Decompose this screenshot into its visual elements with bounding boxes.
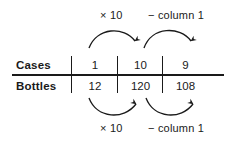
top-multiply-label: × 10: [100, 9, 123, 21]
row-label-cases: Cases: [16, 59, 51, 71]
ratio-table: Cases 1 10 9 Bottles 12 120 108: [0, 55, 232, 95]
bottom-subtract-label: − column 1: [148, 122, 204, 134]
cell-bottles-col1: 12: [72, 80, 118, 92]
cell-cases-col1: 1: [72, 59, 118, 71]
column-divider-3: [162, 56, 163, 93]
cell-bottles-col2: 120: [118, 80, 163, 92]
arrow-bottom-subtract: [146, 98, 193, 115]
top-subtract-label: − column 1: [148, 9, 204, 21]
table-row-bottles: Bottles 12 120 108: [0, 76, 232, 95]
cell-bottles-col3: 108: [163, 80, 208, 92]
arrow-top-multiply: [89, 31, 135, 48]
bottom-multiply-label: × 10: [100, 122, 123, 134]
arrow-bottom-multiply: [89, 98, 136, 115]
table-row-cases: Cases 1 10 9: [0, 55, 232, 74]
diagram-canvas: × 10 − column 1 × 10 − column 1 Cases 1 …: [0, 0, 232, 144]
cell-cases-col2: 10: [118, 59, 163, 71]
column-divider-1: [71, 56, 72, 93]
column-divider-2: [117, 56, 118, 93]
row-label-bottles: Bottles: [16, 80, 56, 92]
cell-cases-col3: 9: [163, 59, 208, 71]
arrow-top-subtract: [144, 31, 191, 48]
